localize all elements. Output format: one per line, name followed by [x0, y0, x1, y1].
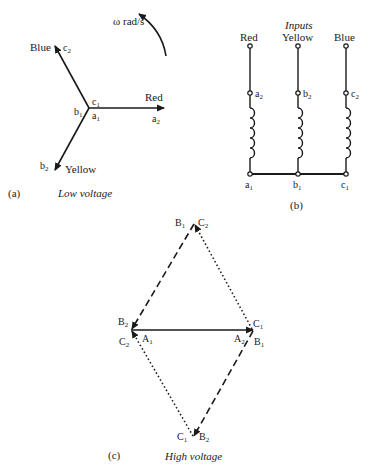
- C2-left-label: C2: [119, 336, 129, 347]
- a1-terminal-label: a1: [245, 179, 253, 190]
- winding-red: [250, 48, 255, 172]
- yellow-label: Yellow: [65, 164, 96, 175]
- A1-label: A1: [142, 333, 153, 344]
- blue-label: Blue: [30, 42, 51, 53]
- c1-terminal-label: c1: [341, 179, 349, 190]
- B2-left-label: B2: [118, 316, 128, 327]
- A2-label: A2: [234, 333, 245, 344]
- b1-terminal-label: b1: [293, 179, 302, 190]
- phasor-C-upper: [195, 225, 252, 329]
- red-label: Red: [145, 92, 163, 103]
- winding-blue: [346, 48, 351, 172]
- C1-bottom-label: C1: [177, 431, 187, 442]
- panel-c-tag: (c): [108, 450, 120, 461]
- b1-label: b1: [74, 106, 83, 117]
- panel-a-tag: (a): [8, 188, 20, 199]
- panel-b-circuit: [248, 44, 351, 176]
- C2-top-label: C2: [198, 217, 208, 228]
- panel-b-tag: (b): [290, 200, 303, 211]
- panel-a-caption: Low voltage: [58, 188, 112, 199]
- rotation-label: ω rad/s: [113, 16, 144, 27]
- input-red: Red: [240, 32, 258, 43]
- a2-terminal-label: a2: [255, 88, 263, 99]
- C1-right-label: C1: [253, 318, 263, 329]
- b2-terminal-label: b2: [303, 88, 312, 99]
- B1-top-label: B1: [175, 217, 185, 228]
- inputs-title: Inputs: [285, 20, 313, 31]
- a1-label: a1: [92, 110, 100, 121]
- panel-c-caption: High voltage: [165, 451, 222, 462]
- b2-label: b2: [40, 160, 49, 171]
- phasor-C-lower: [132, 331, 193, 436]
- c2-terminal-label: c2: [351, 88, 359, 99]
- B1-right-label: B1: [254, 336, 264, 347]
- phasor-B-lower: [194, 331, 253, 436]
- panel-c-phasors: [131, 224, 253, 436]
- input-blue: Blue: [334, 32, 355, 43]
- a2-label: a2: [152, 113, 160, 124]
- yellow-phasor: [55, 108, 89, 170]
- blue-phasor: [55, 46, 89, 108]
- c1-label: c1: [92, 96, 100, 107]
- B2-bottom-label: B2: [199, 431, 209, 442]
- c2-label: c2: [63, 42, 71, 53]
- phasor-B-upper: [132, 224, 194, 329]
- winding-yellow: [298, 48, 303, 172]
- diagram-canvas: [0, 0, 365, 469]
- input-yellow: Yellow: [282, 32, 313, 43]
